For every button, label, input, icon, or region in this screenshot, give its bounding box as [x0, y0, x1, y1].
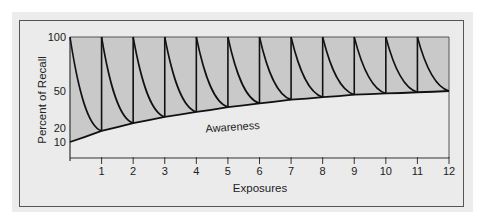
x-tick-label: 7 — [288, 165, 294, 177]
x-tick-label: 1 — [99, 165, 105, 177]
x-tick-label: 6 — [256, 165, 262, 177]
x-axis-title: Exposures — [233, 182, 288, 194]
x-tick-label: 5 — [225, 165, 231, 177]
x-tick-label: 2 — [130, 165, 136, 177]
x-tick-label: 11 — [412, 165, 423, 177]
y-axis-title: Percent of Recall — [36, 56, 48, 144]
x-tick-label: 4 — [193, 165, 199, 177]
x-tick-label: 10 — [380, 165, 392, 177]
awareness-label: Awareness — [205, 119, 260, 135]
x-tick-label: 12 — [443, 165, 455, 177]
plot-area: Awareness100502010123456789101112 — [48, 31, 455, 177]
x-tick-label: 9 — [351, 165, 357, 177]
x-tick-label: 8 — [320, 165, 326, 177]
y-tick-label: 10 — [54, 136, 66, 148]
y-tick-label: 50 — [54, 85, 66, 97]
y-tick-label: 20 — [54, 122, 66, 134]
y-tick-label: 100 — [48, 31, 66, 43]
recall-awareness-chart: Awareness100502010123456789101112 Percen… — [0, 0, 483, 219]
x-tick-label: 3 — [162, 165, 168, 177]
